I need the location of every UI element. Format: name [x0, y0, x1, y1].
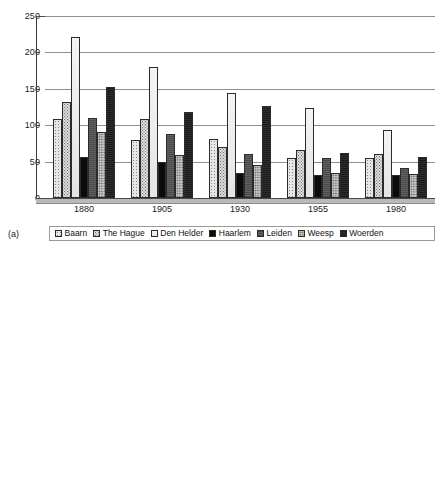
legend-swatch-icon: [55, 230, 62, 237]
bar-group: [287, 16, 349, 198]
bar[interactable]: [71, 37, 80, 198]
bar[interactable]: [314, 175, 323, 198]
x-axis-tick-label: 1905: [152, 204, 172, 214]
legend-item[interactable]: Den Helder: [151, 229, 204, 238]
legend-item-label: Haarlem: [219, 229, 251, 238]
figure-root: 05010015020025018801905193019551980Baarn…: [0, 0, 444, 493]
bar[interactable]: [244, 154, 253, 198]
plot-area-a: 05010015020025018801905193019551980Baarn…: [0, 0, 444, 246]
legend-item-label: The Hague: [103, 229, 145, 238]
bar[interactable]: [418, 157, 427, 198]
bar[interactable]: [392, 175, 401, 198]
legend-item[interactable]: Woerden: [340, 229, 384, 238]
bar[interactable]: [365, 158, 374, 198]
legend-item[interactable]: Baarn: [55, 229, 87, 238]
bar[interactable]: [175, 155, 184, 198]
bar-group: [53, 16, 115, 198]
legend-swatch-icon: [257, 230, 264, 237]
legend-item[interactable]: Weesp: [298, 229, 334, 238]
x-axis-tick-label: 1980: [386, 204, 406, 214]
bar-set: [365, 16, 427, 198]
bar[interactable]: [158, 162, 167, 198]
legend-item-label: Weesp: [307, 229, 333, 238]
bar-set: [209, 16, 271, 198]
bar-group: [365, 16, 427, 198]
panel-a-tag: (a): [8, 229, 19, 239]
bar[interactable]: [236, 173, 245, 198]
bar-group: [209, 16, 271, 198]
bar[interactable]: [62, 102, 71, 198]
bar[interactable]: [166, 134, 175, 198]
bar-group: [131, 16, 193, 198]
bar[interactable]: [97, 132, 106, 198]
bar[interactable]: [80, 157, 89, 198]
bar[interactable]: [296, 150, 305, 198]
chart-panel-a: 05010015020025018801905193019551980Baarn…: [0, 0, 444, 246]
legend-swatch-icon: [209, 230, 216, 237]
legend-swatch-icon: [298, 230, 305, 237]
bar[interactable]: [262, 106, 271, 198]
bar[interactable]: [131, 140, 140, 198]
y-axis-labels: 050100150200250: [0, 16, 40, 198]
chart-legend: BaarnThe HagueDen HelderHaarlemLeidenWee…: [49, 226, 435, 241]
bar[interactable]: [400, 168, 409, 198]
legend-item-label: Baarn: [65, 229, 88, 238]
axis-corner-connector: [36, 16, 45, 17]
legend-item-label: Den Helder: [160, 229, 203, 238]
bar[interactable]: [322, 158, 331, 198]
bar-set: [53, 16, 115, 198]
bar[interactable]: [184, 112, 193, 198]
legend-item[interactable]: Leiden: [257, 229, 292, 238]
legend-item[interactable]: Haarlem: [209, 229, 251, 238]
bar[interactable]: [88, 118, 97, 198]
bar[interactable]: [53, 119, 62, 198]
x-axis-tick-label: 1930: [230, 204, 250, 214]
bar[interactable]: [209, 139, 218, 198]
legend-swatch-icon: [340, 230, 347, 237]
bar[interactable]: [374, 154, 383, 198]
bar[interactable]: [149, 67, 158, 198]
legend-item[interactable]: The Hague: [93, 229, 145, 238]
bar[interactable]: [383, 130, 392, 198]
legend-swatch-icon: [151, 230, 158, 237]
bar[interactable]: [227, 93, 236, 198]
x-axis-tick-label: 1955: [308, 204, 328, 214]
legend-swatch-icon: [93, 230, 100, 237]
bar-set: [131, 16, 193, 198]
bar[interactable]: [409, 174, 418, 198]
legend-item-label: Leiden: [266, 229, 292, 238]
bar[interactable]: [140, 119, 149, 198]
bar[interactable]: [106, 87, 115, 198]
bar[interactable]: [305, 108, 314, 198]
legend-item-label: Woerden: [349, 229, 383, 238]
bar[interactable]: [331, 173, 340, 198]
bar[interactable]: [287, 158, 296, 198]
bar[interactable]: [218, 147, 227, 198]
x-axis-tick-label: 1880: [74, 204, 94, 214]
chart-panel-b: 051015202518801905193019551980BaarnThe H…: [0, 246, 444, 492]
y-axis-line: [36, 16, 37, 203]
bar[interactable]: [340, 153, 349, 198]
bar-set: [287, 16, 349, 198]
bar[interactable]: [253, 165, 262, 198]
